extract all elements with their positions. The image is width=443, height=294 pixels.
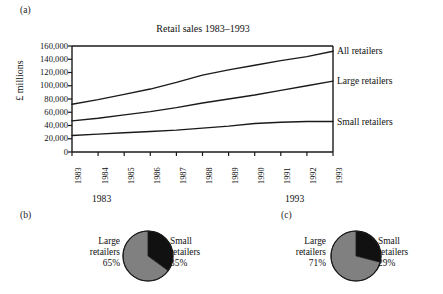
pie-c-small-name: Small <box>378 236 400 246</box>
pie-b-small-label: Small retailers 35% <box>170 236 244 269</box>
pie-b-large-name: Large <box>98 236 120 246</box>
pie-c-small-percent: 29% <box>378 258 443 269</box>
pie-b-graphic <box>122 230 174 286</box>
pie-c-small-name2: retailers <box>378 247 408 257</box>
x-tick-label: 1988 <box>206 167 214 184</box>
pie-c-large-label: Large retailers 71% <box>258 236 326 269</box>
x-tick-label: 1990 <box>258 167 266 184</box>
pie-chart-panel-b: Large retailers 65% Small retailers 35% <box>48 222 238 294</box>
pie-b-large-label: Large retailers 65% <box>46 236 120 269</box>
pie-chart-panel-c: Large retailers 71% Small retailers 29% <box>268 222 443 294</box>
pie-c-large-name: Large <box>304 236 326 246</box>
x-group-label: 1993 <box>285 194 304 204</box>
pie-c-graphic <box>330 230 382 286</box>
series-label-all-retailers: All retailers <box>337 46 383 56</box>
x-tick-label: 1987 <box>180 167 188 184</box>
pie-b-small-name2: retailers <box>170 247 200 257</box>
x-tick-label: 1985 <box>128 167 136 184</box>
pie-c-large-name2: retailers <box>296 247 326 257</box>
series-label-large-retailers: Large retailers <box>337 76 393 86</box>
line-chart-panel: Retail sales 1983–1993 £ millions 160,00… <box>0 0 443 205</box>
chart-axes <box>72 46 333 152</box>
panel-b-letter: (b) <box>20 210 31 220</box>
x-tick-label: 1984 <box>102 167 110 184</box>
line-chart-plot <box>0 0 443 205</box>
x-tick-label: 1992 <box>310 167 318 184</box>
panel-c-letter: (c) <box>281 210 292 220</box>
pie-c-svg <box>330 230 382 282</box>
pie-b-large-percent: 65% <box>46 258 120 269</box>
chart-series-lines <box>72 51 333 135</box>
pie-b-small-name: Small <box>170 236 192 246</box>
x-tick-label: 1983 <box>75 167 83 184</box>
pie-b-large-name2: retailers <box>90 247 120 257</box>
x-group-label: 1983 <box>92 194 111 204</box>
pie-b-small-percent: 35% <box>170 258 244 269</box>
chart-tick-marks <box>68 46 333 156</box>
x-tick-label: 1986 <box>154 167 162 184</box>
x-tick-label: 1989 <box>232 167 240 184</box>
x-tick-label: 1991 <box>284 167 292 184</box>
pie-b-svg <box>122 230 174 282</box>
pie-c-large-percent: 71% <box>258 258 326 269</box>
pie-c-small-label: Small retailers 29% <box>378 236 443 269</box>
series-label-small-retailers: Small retailers <box>337 117 393 127</box>
x-tick-label: 1993 <box>336 167 344 184</box>
